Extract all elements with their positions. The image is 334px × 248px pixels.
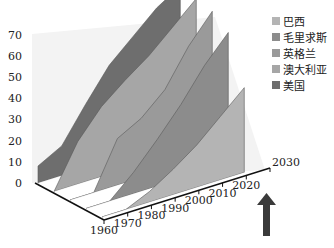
legend-label: 英格兰: [283, 45, 316, 61]
legend-swatch: [272, 33, 280, 41]
x-tick-label: 2020: [232, 179, 260, 192]
legend-item-australia: 澳大利亚: [272, 61, 327, 77]
up-arrow-icon: [257, 193, 276, 236]
x-tick-label: 2030: [272, 156, 300, 169]
legend-item-england: 英格兰: [272, 45, 327, 61]
legend-swatch: [272, 81, 280, 89]
y-tick-label: 60: [2, 50, 22, 63]
y-tick-label: 0: [2, 177, 22, 190]
legend-item-mauritius: 毛里求斯: [272, 29, 327, 45]
y-tick-label: 70: [2, 29, 22, 42]
legend-label: 毛里求斯: [283, 29, 327, 45]
legend-swatch: [272, 49, 280, 57]
legend: 巴西 毛里求斯 英格兰 澳大利亚 美国: [272, 13, 327, 93]
y-tick-label: 40: [2, 92, 22, 105]
legend-label: 美国: [283, 77, 305, 93]
y-tick-label: 30: [2, 113, 22, 126]
y-tick-label: 20: [2, 135, 22, 148]
legend-swatch: [272, 17, 280, 25]
legend-item-brazil: 巴西: [272, 13, 327, 29]
legend-label: 澳大利亚: [283, 61, 327, 77]
legend-swatch: [272, 65, 280, 73]
legend-item-usa: 美国: [272, 77, 327, 93]
y-tick-label: 50: [2, 71, 22, 84]
y-tick-label: 10: [2, 156, 22, 169]
legend-label: 巴西: [283, 13, 305, 29]
